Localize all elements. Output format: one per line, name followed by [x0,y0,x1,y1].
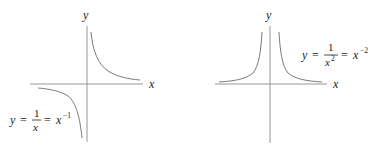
equation-denominator: x [32,121,38,133]
equation-base: x [55,113,62,127]
graph-reciprocal: y x y = 1 x = x −1 [9,8,155,142]
equation-equals-2: = [341,48,348,62]
curve-branch-upper-right [91,32,140,80]
equation-base: x [352,48,359,62]
equation-exponent: −1 [63,111,71,120]
equation-lhs: y [9,113,16,127]
y-axis-label: y [265,8,272,22]
equation-numerator: 1 [328,41,334,53]
equation-equals-2: = [44,113,51,127]
equation-denominator-exponent: 2 [331,54,335,63]
x-axis-label: x [332,77,339,91]
equation-label: y = 1 x 2 = x −2 [301,41,368,68]
hyperbola-diagram: y x y = 1 x = x −1 y x y = 1 [0,0,375,152]
curve-branch-left [219,32,262,82]
equation-equals-1: = [312,48,319,62]
equation-exponent: −2 [360,46,368,55]
graph-inverse-square: y x y = 1 x 2 = x −2 [215,8,368,143]
equation-equals-1: = [20,113,27,127]
equation-numerator: 1 [34,107,40,119]
x-axis-label: x [148,77,155,91]
equation-lhs: y [301,48,308,62]
equation-denominator: x [324,56,330,68]
y-axis-label: y [82,8,89,22]
equation-label: y = 1 x = x −1 [9,107,71,133]
